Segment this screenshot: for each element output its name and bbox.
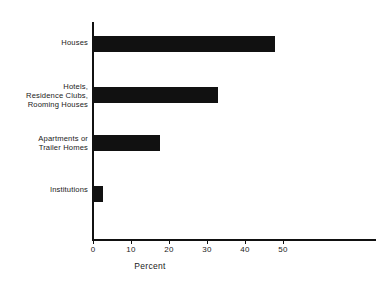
- x-axis-tick-label: 10: [116, 245, 146, 254]
- x-axis-line: [92, 239, 376, 241]
- x-axis-tick-label: 50: [268, 245, 298, 254]
- bar-category-label: Institutions: [0, 185, 88, 194]
- bar-category-label: Houses: [0, 38, 88, 47]
- bar: [93, 135, 160, 151]
- bar-row: Institutions: [0, 186, 390, 202]
- x-axis-tick: [207, 241, 208, 244]
- bar-category-label: Apartments or Trailer Homes: [0, 134, 88, 152]
- x-axis-tick: [169, 241, 170, 244]
- bar-row: Apartments or Trailer Homes: [0, 135, 390, 151]
- bar-row: Houses: [0, 36, 390, 52]
- x-axis-tick-label: 20: [154, 245, 184, 254]
- x-axis-title: Percent: [0, 261, 300, 271]
- x-axis-tick-label: 40: [230, 245, 260, 254]
- bar: [93, 186, 103, 202]
- x-axis-tick-label: 0: [78, 245, 108, 254]
- x-axis-tick: [93, 241, 94, 244]
- x-axis-tick: [283, 241, 284, 244]
- x-axis-tick: [245, 241, 246, 244]
- bar-chart: HousesHotels, Residence Clubs, Rooming H…: [0, 0, 390, 284]
- bar: [93, 36, 275, 52]
- x-axis-tick-label: 30: [192, 245, 222, 254]
- bar-row: Hotels, Residence Clubs, Rooming Houses: [0, 87, 390, 103]
- y-axis-line: [92, 22, 94, 240]
- bar: [93, 87, 218, 103]
- bar-category-label: Hotels, Residence Clubs, Rooming Houses: [0, 82, 88, 110]
- x-axis-tick: [131, 241, 132, 244]
